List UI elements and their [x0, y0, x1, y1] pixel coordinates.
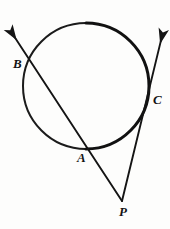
- point-label-c: C: [153, 93, 162, 106]
- line-PC-ray: [122, 37, 162, 201]
- circle-group: [23, 23, 149, 149]
- point-label-a: A: [77, 151, 86, 164]
- point-label-p: P: [119, 205, 127, 218]
- secant-line-BAP: [13, 34, 122, 201]
- geometry-figure: B A C P: [0, 0, 170, 229]
- geometry-canvas: [0, 0, 170, 229]
- point-label-b: B: [13, 57, 22, 70]
